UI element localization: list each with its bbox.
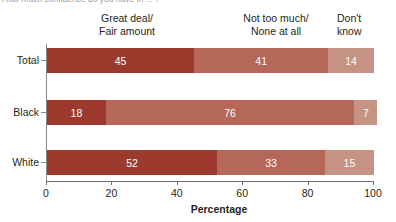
bar-segment: 33 (217, 150, 325, 175)
category-axis-labels: TotalBlackWhite (0, 44, 39, 181)
bar-row: 454114 (47, 48, 374, 73)
bar-segment: 15 (325, 150, 374, 175)
legend-header-dont-know: Don't know (337, 12, 391, 38)
bar-segment: 14 (328, 48, 374, 73)
legend-header-not-too-much-line1: Not too much/ (218, 12, 334, 25)
legend-header-great-deal-line1: Great deal/ (62, 12, 192, 25)
bar-segment: 41 (194, 48, 328, 73)
x-axis-tick-label: 100 (364, 187, 382, 199)
x-axis-tick (242, 181, 243, 185)
x-axis-title: Percentage (0, 203, 396, 215)
x-axis-tick (373, 181, 374, 185)
x-axis-line (46, 181, 374, 182)
x-axis-tick-label: 20 (106, 187, 118, 199)
x-axis-tick (308, 181, 309, 185)
bar-segment: 18 (47, 100, 106, 125)
x-axis-tick (46, 181, 47, 185)
chart-title-cropped: How much confidence do you have in ... ? (0, 0, 396, 7)
legend-header-not-too-much: Not too much/ None at all (218, 12, 334, 38)
bar-segment: 7 (354, 100, 377, 125)
bar-row: 523315 (47, 150, 374, 175)
bar-segment: 45 (47, 48, 194, 73)
legend-header-great-deal: Great deal/ Fair amount (62, 12, 192, 38)
x-axis-tick-label: 60 (236, 187, 248, 199)
chart-legend-headers: Great deal/ Fair amount Not too much/ No… (0, 12, 396, 42)
bar-segment: 76 (106, 100, 355, 125)
legend-header-not-too-much-line2: None at all (218, 25, 334, 38)
x-axis-tick (111, 181, 112, 185)
category-axis-tick (41, 112, 46, 113)
category-axis-tick (41, 162, 46, 163)
legend-header-great-deal-line2: Fair amount (62, 25, 192, 38)
legend-header-dont-know-line2: know (337, 25, 391, 38)
category-label: Total (17, 54, 39, 66)
stacked-bar-chart: How much confidence do you have in ... ?… (0, 0, 396, 222)
plot-area: 02040608010045411418767523315 (46, 44, 373, 181)
category-label: Black (13, 106, 39, 118)
category-axis-tick (41, 60, 46, 61)
bar-row: 18767 (47, 100, 374, 125)
x-axis-title-text: Percentage (191, 203, 248, 215)
legend-header-dont-know-line1: Don't (337, 12, 391, 25)
x-axis-tick (177, 181, 178, 185)
chart-title-text: How much confidence do you have in ... ? (2, 0, 160, 4)
x-axis-tick-label: 40 (171, 187, 183, 199)
x-axis-tick-label: 0 (43, 187, 49, 199)
bar-segment: 52 (47, 150, 217, 175)
x-axis-tick-label: 80 (302, 187, 314, 199)
category-label: White (12, 156, 39, 168)
